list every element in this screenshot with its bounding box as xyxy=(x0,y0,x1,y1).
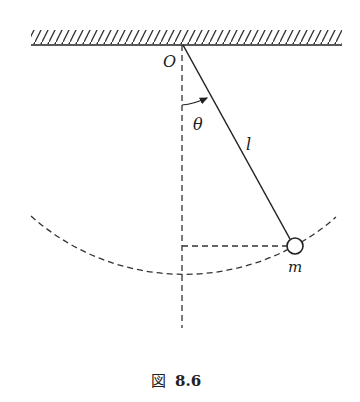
ceiling xyxy=(31,30,342,45)
angle-arc-arrow xyxy=(182,98,207,105)
pendulum-diagram: O θ l m 図 8.6 xyxy=(0,0,360,402)
length-label: l xyxy=(246,135,251,154)
pendulum-rod xyxy=(183,45,290,239)
mass-label: m xyxy=(288,258,302,276)
angle-label: θ xyxy=(193,115,203,134)
figure-caption: 図 8.6 xyxy=(151,372,201,390)
pivot-label: O xyxy=(163,52,176,71)
mass-bob xyxy=(287,238,303,254)
ceiling-hatching xyxy=(31,30,342,44)
caption-prefix: 図 xyxy=(151,372,166,390)
caption-number: 8.6 xyxy=(175,372,201,390)
